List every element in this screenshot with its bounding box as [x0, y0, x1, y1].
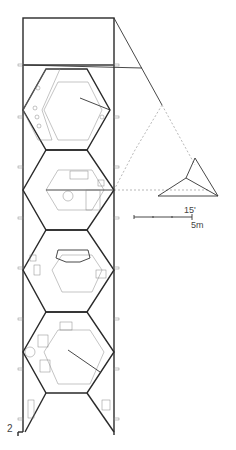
projection-line-1 — [114, 105, 162, 190]
roof-diagonal — [114, 18, 162, 105]
hex-room-4 — [23, 312, 114, 393]
hex-room-3 — [23, 230, 114, 312]
scale-label-feet: 15' — [184, 206, 196, 215]
figure-number: 2 — [7, 424, 13, 434]
top-room — [23, 18, 114, 65]
bottom-right-wall — [87, 393, 114, 432]
projection-line-2 — [162, 105, 195, 165]
scale-label-meters: 5m — [191, 221, 204, 230]
